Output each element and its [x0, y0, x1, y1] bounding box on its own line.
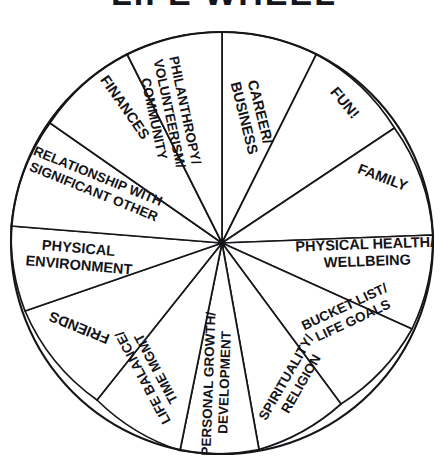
wheel-svg: CAREER/ BUSINESS FUN! FAMILY PHYSICAL HE… [0, 0, 448, 468]
page-title: LIFE WHEEL [0, 0, 448, 11]
life-wheel-diagram: LIFE WHEEL CAREER/ BUSINESS [0, 0, 448, 468]
page-title-clip: LIFE WHEEL [0, 0, 448, 11]
